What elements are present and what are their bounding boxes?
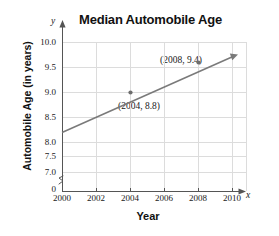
data-point-marker-2004 [128,90,132,94]
horizontal-gridlines [62,43,246,173]
x-axis-ticks [63,188,233,191]
y-axis-line [59,20,65,192]
chart-canvas: Median Automobile Age Automobile Age (in… [0,0,279,236]
plot-graphics [0,0,279,236]
x-axis-line [62,188,246,194]
vertical-gridlines [97,42,247,191]
data-point-marker-2008 [196,60,200,64]
